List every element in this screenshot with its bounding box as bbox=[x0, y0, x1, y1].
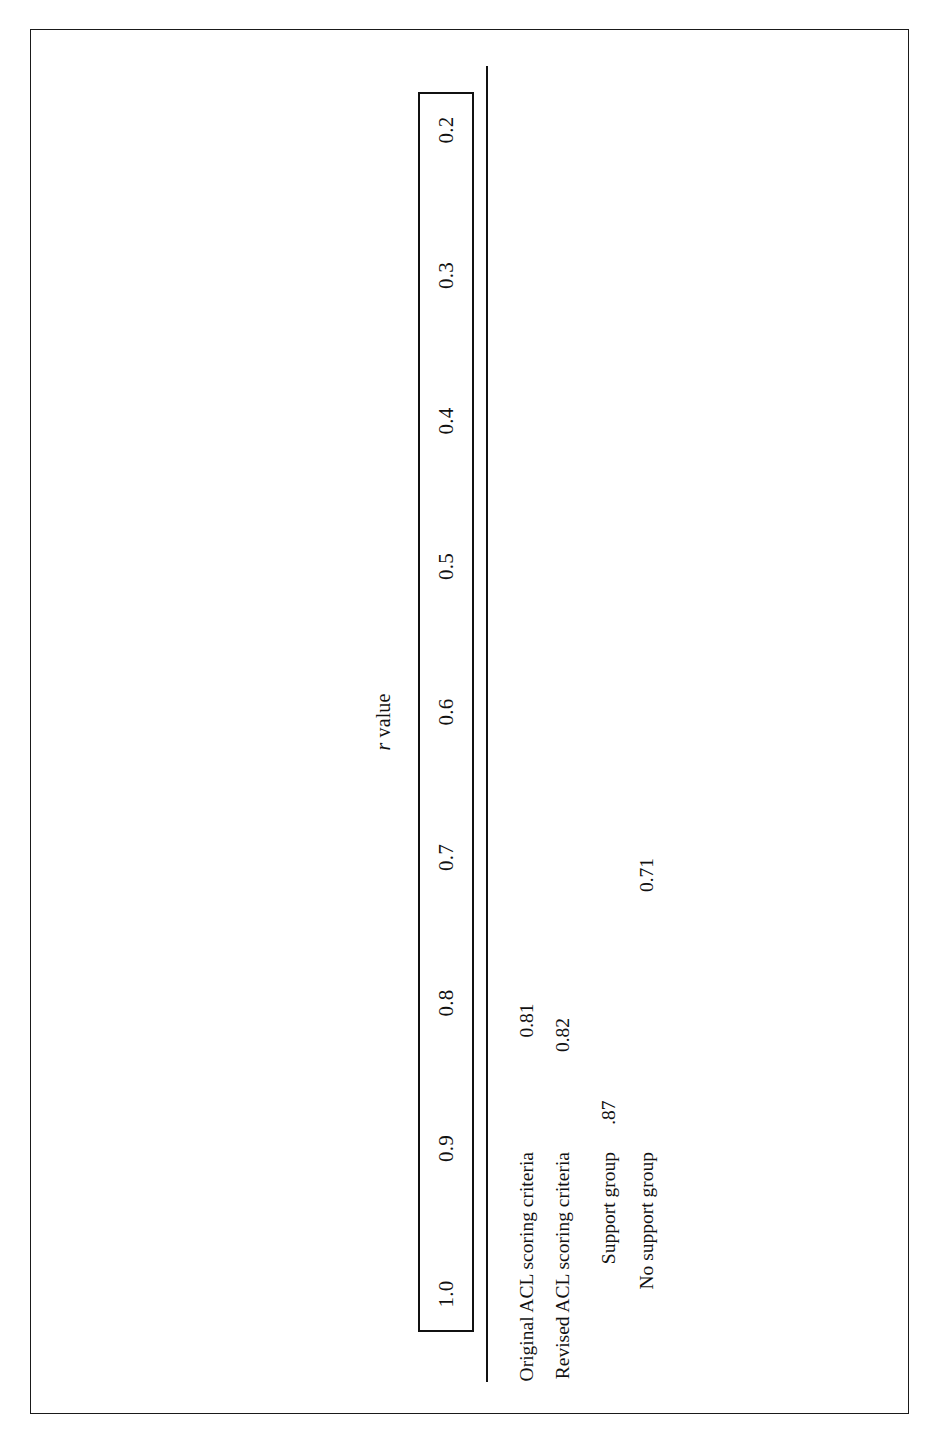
category-row: Original ACL scoring criteria0.81 bbox=[510, 57, 544, 1387]
category-label: Original ACL scoring criteria bbox=[510, 1152, 544, 1381]
bar bbox=[552, 0, 574, 92]
axis-title: r value bbox=[372, 57, 395, 1387]
category-label: Support group bbox=[592, 1152, 626, 1264]
axis-tick-0-4: 0.4 bbox=[425, 391, 467, 451]
bar-value-label: .87 bbox=[592, 1100, 626, 1124]
axis-tick-1-0: 1.0 bbox=[425, 1264, 467, 1324]
axis-tick-0-8: 0.8 bbox=[425, 973, 467, 1033]
category-label: Revised ACL scoring criteria bbox=[546, 1152, 580, 1379]
bar bbox=[516, 0, 538, 92]
axis-tick-0-7: 0.7 bbox=[425, 827, 467, 887]
bar-value-label: 0.81 bbox=[510, 1003, 544, 1037]
bar-value-label: 0.71 bbox=[630, 857, 664, 891]
axis-tick-0-3: 0.3 bbox=[425, 245, 467, 305]
axis-title-symbol: r bbox=[372, 742, 394, 750]
axis-tick-0-9: 0.9 bbox=[425, 1118, 467, 1178]
bar bbox=[636, 0, 658, 92]
axis-tick-0-5: 0.5 bbox=[425, 536, 467, 596]
bar-value-label: 0.82 bbox=[546, 1017, 580, 1051]
axis-tick-0-2: 0.2 bbox=[425, 100, 467, 160]
category-row: Revised ACL scoring criteria0.82 bbox=[546, 57, 580, 1387]
bar-chart: r value 1.00.90.80.70.60.50.40.30.2 Orig… bbox=[40, 57, 900, 1387]
axis-title-text: value bbox=[372, 693, 394, 742]
axis-tick-0-6: 0.6 bbox=[425, 682, 467, 742]
category-row: No support group0.71 bbox=[630, 57, 664, 1387]
rotated-figure-canvas: r value 1.00.90.80.70.60.50.40.30.2 Orig… bbox=[40, 57, 900, 1387]
figure-page-frame: r value 1.00.90.80.70.60.50.40.30.2 Orig… bbox=[30, 29, 909, 1414]
category-label: No support group bbox=[630, 1152, 664, 1290]
bar bbox=[598, 49, 620, 91]
category-axis-baseline bbox=[486, 66, 488, 1382]
category-row: Support group.87 bbox=[592, 57, 626, 1387]
